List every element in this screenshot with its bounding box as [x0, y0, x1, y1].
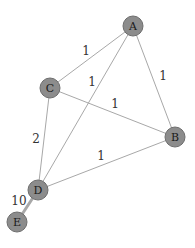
- edge-c-b: [50, 88, 175, 137]
- node-b-label: B: [171, 131, 179, 144]
- edge-a-b: [133, 26, 175, 137]
- weight-a-d: 1: [88, 75, 96, 89]
- graph-canvas: 1 1 1 1 2 1 10 A B C D E: [0, 0, 195, 248]
- weight-d-e: 10: [11, 194, 26, 208]
- node-a[interactable]: A: [123, 16, 143, 36]
- node-e[interactable]: E: [7, 212, 27, 232]
- node-b[interactable]: B: [165, 127, 185, 147]
- node-e-label: E: [13, 216, 21, 229]
- node-d[interactable]: D: [28, 180, 48, 200]
- weight-a-c: 1: [82, 44, 90, 58]
- nodes: A B C D E: [7, 16, 185, 232]
- node-a-label: A: [128, 20, 138, 33]
- weight-a-b: 1: [159, 69, 167, 83]
- weight-c-b: 1: [111, 97, 119, 111]
- node-c-label: C: [46, 82, 54, 95]
- node-d-label: D: [34, 184, 43, 197]
- edge-d-b: [38, 137, 175, 190]
- weight-c-d: 2: [32, 132, 40, 146]
- weight-d-b: 1: [97, 149, 105, 163]
- node-c[interactable]: C: [40, 78, 60, 98]
